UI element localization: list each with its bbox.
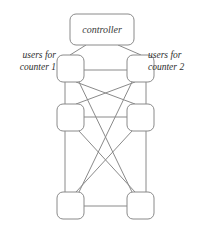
edge-controller-right-1 [118, 45, 141, 55]
label-users-counter-2-line1: users for [148, 50, 200, 62]
edge-controller-left-1 [70, 45, 86, 55]
label-users-counter-2-line2: counter 2 [148, 62, 200, 74]
label-users-counter-1-line1: users for [2, 50, 56, 62]
label-users-counter-2: users for counter 2 [148, 50, 200, 73]
diagram-svg: controller [0, 0, 201, 228]
label-users-counter-1: users for counter 1 [2, 50, 56, 73]
user-node-left-1[interactable] [57, 55, 84, 82]
label-users-counter-1-line2: counter 1 [2, 62, 56, 74]
user-node-right-3[interactable] [127, 192, 154, 219]
user-node-left-2[interactable] [57, 104, 84, 131]
user-node-right-2[interactable] [127, 104, 154, 131]
diagram-canvas: controller users for counter 1 users for… [0, 0, 201, 228]
controller-label: controller [82, 24, 122, 35]
user-node-left-3[interactable] [57, 192, 84, 219]
